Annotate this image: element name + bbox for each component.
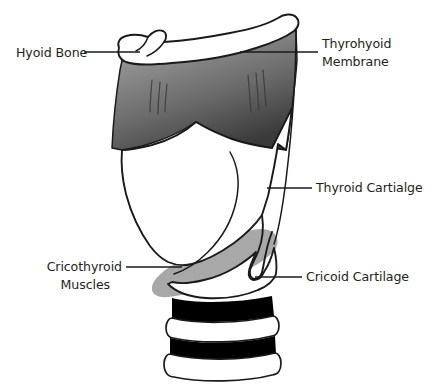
label-thyrohyoid-membrane-line1: Thyrohyoid <box>321 36 391 51</box>
larynx-diagram: Hyoid Bone Thyrohyoid Membrane Thyroid C… <box>0 0 436 388</box>
label-thyroid-cartilage: Thyroid Cartialge <box>315 180 423 195</box>
label-cricothyroid-muscles-line2: Muscles <box>61 277 110 292</box>
label-cricothyroid-muscles-line1: Cricothyroid <box>47 259 122 274</box>
label-hyoid-bone: Hyoid Bone <box>16 45 88 60</box>
label-cricoid-cartilage: Cricoid Cartilage <box>306 269 409 284</box>
label-thyrohyoid-membrane-line2: Membrane <box>322 54 389 69</box>
diagram-canvas: Hyoid Bone Thyrohyoid Membrane Thyroid C… <box>0 0 436 388</box>
trachea-shape <box>164 296 281 381</box>
